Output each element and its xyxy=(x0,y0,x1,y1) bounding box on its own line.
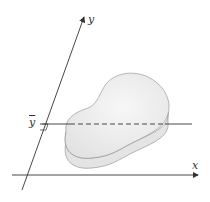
y-axis-label: y xyxy=(88,14,94,25)
y-bar-label: y xyxy=(29,117,35,128)
diagram-canvas xyxy=(0,0,210,202)
x-axis-label: x xyxy=(192,160,198,171)
region-top xyxy=(65,73,169,158)
